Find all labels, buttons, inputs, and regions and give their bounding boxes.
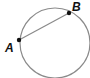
label-b: B: [72, 0, 81, 14]
diagram-canvas: A B: [0, 0, 90, 78]
point-b: [67, 11, 71, 15]
label-a: A: [4, 41, 14, 55]
chord-ab: [19, 13, 69, 40]
point-a: [17, 38, 21, 42]
circle: [20, 8, 90, 78]
